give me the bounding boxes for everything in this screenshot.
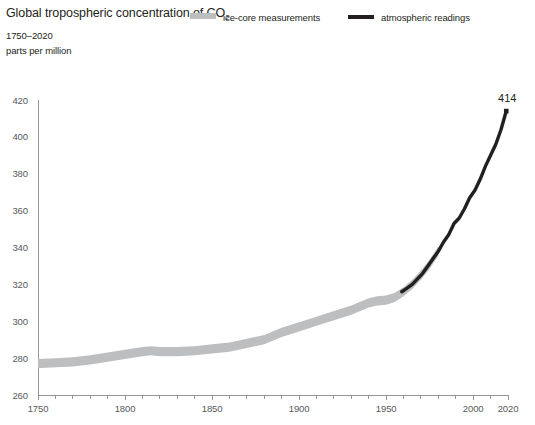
data-series-band-0 [38, 247, 438, 369]
y-axis-tick-label: 340 [12, 242, 28, 253]
y-axis-tick-label: 400 [12, 131, 28, 142]
x-axis-tick-label: 1850 [202, 403, 223, 414]
y-axis-tick-label: 420 [12, 95, 28, 106]
y-axis-tick-label: 360 [12, 205, 28, 216]
x-axis-tick-label: 1950 [376, 403, 397, 414]
data-series-line-1 [402, 111, 506, 292]
annotation-marker-square [504, 109, 509, 114]
x-axis-tick-label: 1900 [289, 403, 310, 414]
x-axis-tick-label: 2000 [463, 403, 484, 414]
y-axis-tick-label: 300 [12, 316, 28, 327]
x-axis-tick-label: 1750 [28, 403, 49, 414]
annotation-value-label: 414 [498, 92, 516, 104]
chart-plot-area: 2602803003203403603804004201750180018501… [0, 0, 535, 425]
y-axis-tick-label: 260 [12, 390, 28, 401]
y-axis-tick-label: 280 [12, 353, 28, 364]
y-axis-tick-label: 380 [12, 168, 28, 179]
y-axis-tick-label: 320 [12, 279, 28, 290]
co2-line-chart: 2602803003203403603804004201750180018501… [0, 0, 535, 425]
x-axis-tick-label: 2020 [498, 403, 519, 414]
x-axis-tick-label: 1800 [115, 403, 136, 414]
